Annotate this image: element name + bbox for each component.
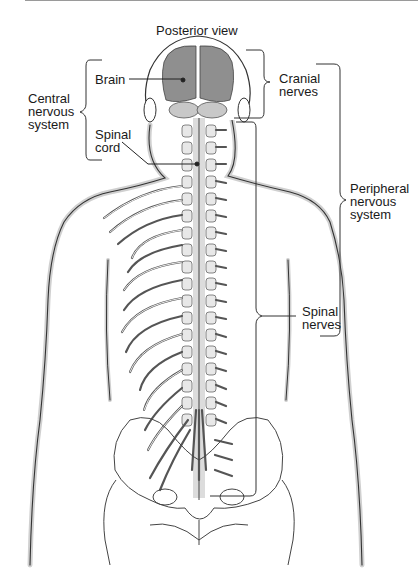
nervous-system-illustration bbox=[0, 0, 418, 572]
label-cranial-nerves: Cranial nerves bbox=[279, 72, 320, 98]
label-brain: Brain bbox=[95, 73, 125, 86]
label-spinal-nerves: Spinal nerves bbox=[302, 305, 341, 331]
label-spinal-cord: Spinal cord bbox=[95, 128, 131, 154]
cerebellum-left bbox=[169, 102, 199, 118]
diagram-title: Posterior view bbox=[156, 24, 238, 37]
label-central-nervous-system: Central nervous system bbox=[28, 92, 74, 131]
label-peripheral-nervous-system: Peripheral nervous system bbox=[350, 182, 409, 221]
cerebellum-right bbox=[197, 102, 227, 118]
